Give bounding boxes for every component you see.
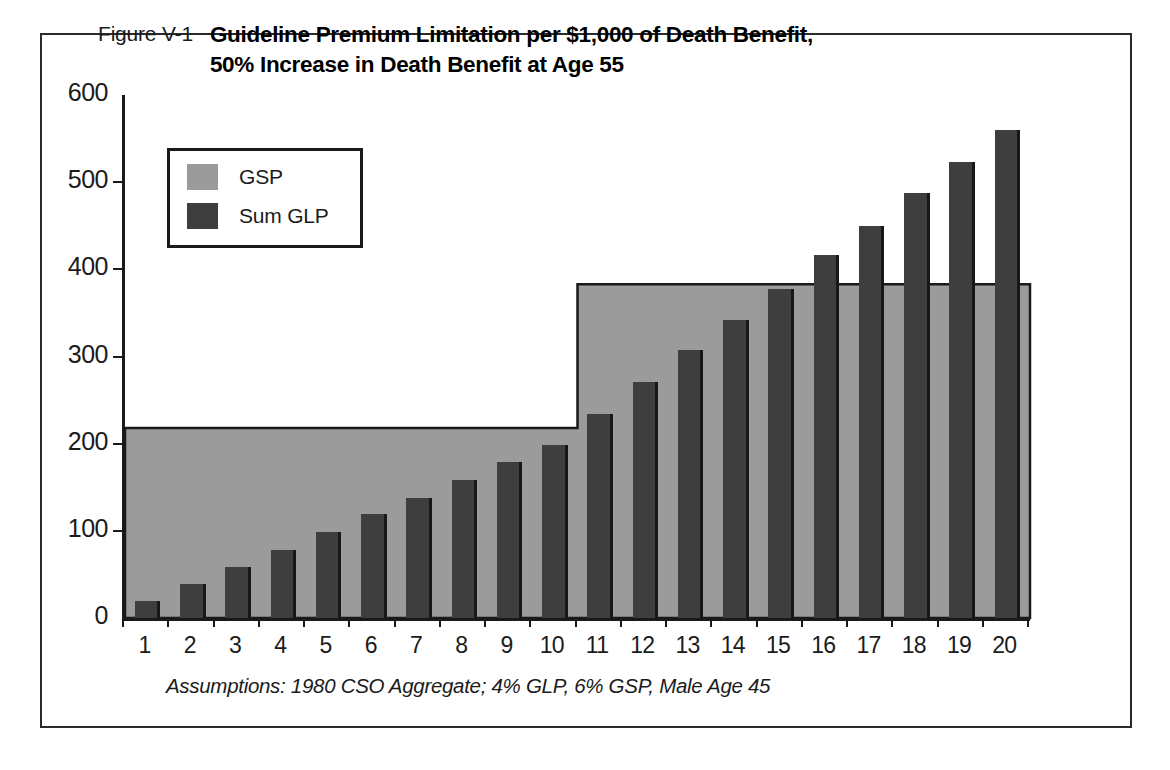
page-title: Guideline Premium Limitation per $1,000 … <box>210 20 813 79</box>
x-axis-tick-label: 12 <box>617 632 667 659</box>
x-axis-tick-label: 15 <box>753 632 803 659</box>
bar-sum-glp <box>135 601 160 618</box>
x-axis-tick-label: 14 <box>708 632 758 659</box>
bar-sum-glp <box>904 193 929 618</box>
x-axis-tick-label: 11 <box>572 632 622 659</box>
x-axis-tick-label: 9 <box>482 632 532 659</box>
x-axis-tick-label: 2 <box>165 632 215 659</box>
x-axis-tick <box>937 618 939 627</box>
x-axis-tick <box>756 618 758 627</box>
bar-sum-glp <box>814 255 839 618</box>
y-axis-tick-label: 300 <box>68 340 108 369</box>
x-axis-tick <box>1027 618 1029 627</box>
bar-sum-glp <box>995 130 1020 618</box>
x-axis-tick-label: 4 <box>255 632 305 659</box>
bar-sum-glp <box>316 532 341 618</box>
x-axis-tick-label: 7 <box>391 632 441 659</box>
x-axis-tick <box>665 618 667 627</box>
y-axis-tick <box>113 530 123 532</box>
legend-label-gsp: GSP <box>239 165 283 189</box>
x-axis-tick-label: 6 <box>346 632 396 659</box>
bar-sum-glp <box>768 289 793 618</box>
x-axis-tick <box>801 618 803 627</box>
x-axis-tick <box>439 618 441 627</box>
y-axis-tick-label: 0 <box>95 601 108 630</box>
legend-label-sum-glp: Sum GLP <box>239 204 329 228</box>
x-axis-tick-label: 13 <box>663 632 713 659</box>
x-axis-tick <box>167 618 169 627</box>
x-axis-tick <box>122 618 124 627</box>
bar-sum-glp <box>678 350 703 618</box>
x-axis-tick <box>394 618 396 627</box>
x-axis-tick-label: 1 <box>120 632 170 659</box>
bar-sum-glp <box>542 445 567 618</box>
bar-sum-glp <box>859 226 884 618</box>
bar-sum-glp <box>180 584 205 618</box>
gsp-area-shape <box>125 284 1030 618</box>
x-axis-tick <box>303 618 305 627</box>
bar-sum-glp <box>723 320 748 618</box>
bar-sum-glp <box>225 567 250 618</box>
legend-item-gsp: GSP <box>187 164 360 190</box>
bar-sum-glp <box>497 462 522 618</box>
x-axis-tick <box>484 618 486 627</box>
x-axis-tick <box>710 618 712 627</box>
x-axis-tick <box>982 618 984 627</box>
x-axis-tick <box>213 618 215 627</box>
title-line-1: Guideline Premium Limitation per $1,000 … <box>210 20 813 50</box>
figure-footnote: Assumptions: 1980 CSO Aggregate; 4% GLP,… <box>166 674 770 698</box>
bar-sum-glp <box>633 382 658 618</box>
x-axis-tick <box>348 618 350 627</box>
x-axis-tick-label: 18 <box>889 632 939 659</box>
x-axis-tick-label: 5 <box>301 632 351 659</box>
bar-sum-glp <box>949 162 974 618</box>
bar-sum-glp <box>452 480 477 618</box>
y-axis-tick <box>113 356 123 358</box>
x-axis-tick <box>258 618 260 627</box>
chart-legend: GSP Sum GLP <box>167 148 363 248</box>
legend-item-sum-glp: Sum GLP <box>187 203 360 229</box>
title-line-2: 50% Increase in Death Benefit at Age 55 <box>210 50 813 80</box>
figure-number: Figure V-1 <box>98 20 193 46</box>
y-axis-tick-label: 200 <box>68 427 108 456</box>
bar-sum-glp <box>361 514 386 618</box>
x-axis-tick-label: 3 <box>210 632 260 659</box>
y-axis-tick-label: 500 <box>68 165 108 194</box>
bar-sum-glp <box>587 414 612 618</box>
bar-sum-glp <box>271 550 296 618</box>
x-axis-tick-label: 19 <box>934 632 984 659</box>
legend-swatch-gsp <box>187 164 218 190</box>
x-axis-tick <box>891 618 893 627</box>
figure-title-block: Figure V-1 Guideline Premium Limitation … <box>98 20 978 79</box>
y-axis-tick-label: 400 <box>68 252 108 281</box>
legend-swatch-sum-glp <box>187 203 218 229</box>
y-axis-tick <box>113 268 123 270</box>
y-axis-tick <box>113 443 123 445</box>
bar-sum-glp <box>406 498 431 618</box>
x-axis-tick <box>620 618 622 627</box>
x-axis-tick <box>575 618 577 627</box>
x-axis-tick-label: 16 <box>798 632 848 659</box>
y-axis-labels: 0100200300400500600 <box>40 0 108 700</box>
x-axis-tick-label: 17 <box>844 632 894 659</box>
x-axis-tick <box>529 618 531 627</box>
y-axis-tick <box>113 181 123 183</box>
x-axis-tick-label: 20 <box>979 632 1029 659</box>
x-axis-tick <box>846 618 848 627</box>
y-axis-tick-label: 600 <box>68 78 108 107</box>
y-axis-tick-label: 100 <box>68 514 108 543</box>
x-axis-tick-label: 8 <box>436 632 486 659</box>
x-axis-tick-label: 10 <box>527 632 577 659</box>
